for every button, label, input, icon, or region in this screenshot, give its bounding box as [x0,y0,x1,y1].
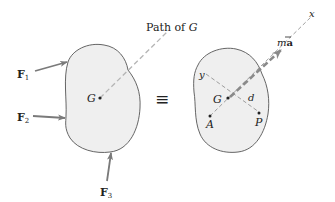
force-label-f2: F2 [17,111,29,125]
point-p-label: P [254,116,263,129]
path-of-g-label: Path of G [146,21,198,34]
point-p-dot [258,112,261,115]
left-body: G F1 F2 F3 [17,31,168,200]
left-center-dot [98,96,101,99]
y-axis-label: y [198,69,205,80]
force-arrow-f1 [35,62,67,71]
x-axis-label: x [309,8,315,19]
equivalence-symbol: ≡ [155,89,169,109]
right-center-dot [226,96,229,99]
force-arrow-f2 [33,116,65,118]
right-body: G A P y d x ma [194,8,315,152]
distance-label: d [248,92,254,103]
right-g-label: G [213,93,222,106]
force-label-f3: F3 [100,186,112,200]
left-blob [65,44,140,152]
force-arrow-f3 [107,153,111,181]
resultant-label: ma [277,37,293,48]
free-body-diagram: G F1 F2 F3 Path of G ≡ G A [0,0,335,202]
right-blob [194,48,269,152]
point-a-label: A [205,118,214,131]
force-label-f1: F1 [17,68,29,82]
left-g-label: G [87,92,96,105]
